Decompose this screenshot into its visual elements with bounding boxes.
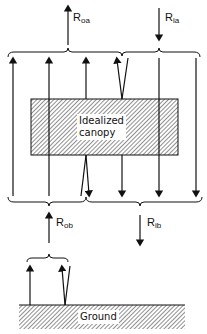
bottom-left-brace	[8, 197, 86, 206]
ground-reflect-up	[62, 268, 65, 305]
canopy-label-line1: Idealized	[79, 115, 124, 127]
top-brace	[8, 48, 200, 57]
bottom-right-brace	[86, 197, 202, 206]
canopy-label-line2: canopy	[79, 127, 124, 139]
ground-reflect-in	[65, 266, 70, 305]
ground-label: Ground	[78, 310, 119, 324]
r-ob-label: Rob	[56, 217, 73, 230]
ground-brace	[27, 254, 68, 262]
r-ib-label: Rib	[147, 217, 161, 230]
canopy-radiation-diagram	[0, 0, 207, 334]
reflect-in-line	[122, 58, 128, 99]
r-ia-label: Ria	[165, 12, 179, 25]
r-oa-label: Roa	[73, 12, 90, 25]
reflect-up-arrow	[117, 60, 122, 99]
down-arrow-1	[86, 155, 89, 194]
reflect-bottom-in	[81, 155, 86, 196]
canopy-label: Idealized canopy	[77, 114, 126, 140]
